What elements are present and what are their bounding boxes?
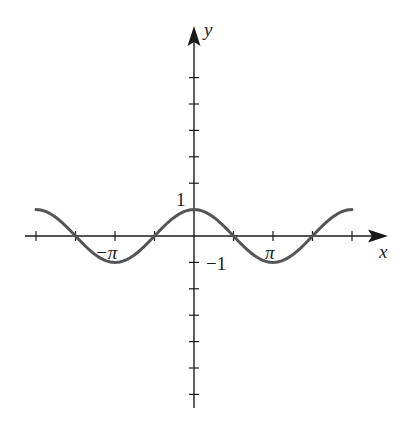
y-tick-label-1: 1	[176, 189, 186, 210]
cosine-graph: y x 1 −1 π −π	[0, 0, 416, 424]
y-tick-label-neg1: −1	[206, 253, 226, 274]
x-axis-label: x	[378, 241, 388, 262]
y-axis-label: y	[202, 19, 213, 40]
x-tick-label-pi: π	[265, 242, 275, 263]
x-tick-label-neg-pi: −π	[95, 242, 118, 263]
